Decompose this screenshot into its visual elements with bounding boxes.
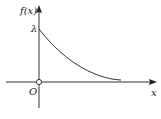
x-axis-label: x bbox=[151, 87, 157, 98]
origin-label: O bbox=[29, 86, 37, 97]
y-axis-label: f(x) bbox=[19, 5, 37, 16]
decay-curve bbox=[39, 29, 121, 80]
origin-open-circle bbox=[36, 79, 41, 84]
lambda-label: λ bbox=[30, 23, 37, 34]
x-axis-arrow-icon bbox=[149, 79, 157, 85]
function-graph: f(x) λ O x bbox=[0, 0, 161, 119]
